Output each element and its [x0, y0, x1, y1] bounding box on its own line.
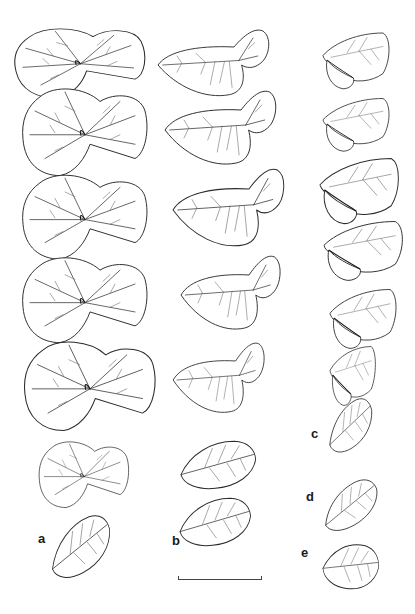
leaf-b7 — [178, 496, 252, 548]
leaf-d — [317, 473, 384, 538]
leaf-e — [322, 540, 380, 592]
leaf-b5 — [173, 343, 264, 412]
leaf-a7 — [45, 508, 116, 586]
label-d: d — [306, 490, 314, 503]
leaf-c2 — [323, 99, 389, 152]
leaf-a1 — [11, 24, 149, 100]
label-c: c — [311, 427, 318, 440]
column-a — [11, 24, 155, 587]
leaf-b3 — [173, 169, 284, 245]
leaf-b4 — [181, 256, 280, 329]
leaf-c6 — [330, 347, 375, 406]
leaf-c1 — [323, 33, 389, 89]
column-b — [158, 30, 284, 548]
leaf-b1 — [158, 30, 269, 96]
leaf-c5 — [330, 290, 396, 349]
leaf-plate — [0, 0, 415, 614]
leaf-c4 — [324, 222, 402, 281]
leaf-a5 — [25, 342, 156, 430]
leaf-b2 — [165, 91, 276, 164]
column-c — [320, 33, 402, 460]
label-e: e — [301, 546, 308, 559]
leaf-a4 — [23, 258, 147, 343]
leaf-a2 — [23, 89, 147, 176]
leaf-c3 — [320, 159, 398, 224]
scale-bar — [178, 576, 262, 580]
leaf-c7 — [324, 392, 376, 460]
leaf-a6 — [39, 442, 129, 508]
label-a: a — [38, 532, 45, 545]
leaf-b6 — [179, 439, 258, 491]
label-b: b — [172, 534, 180, 547]
leaf-a3 — [23, 175, 147, 259]
